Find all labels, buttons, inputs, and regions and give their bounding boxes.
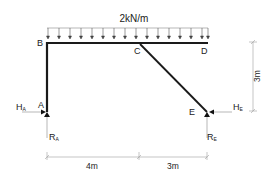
load-arrows xyxy=(47,28,210,39)
dim-label-3m-vertical: 3m xyxy=(252,70,262,82)
node-label-E: E xyxy=(189,107,195,117)
node-label-D: D xyxy=(201,46,208,56)
support-A xyxy=(22,110,50,139)
pin-support-icon xyxy=(204,112,210,117)
reaction-HA-label: HA xyxy=(16,102,27,112)
reaction-HA-arrowhead-icon xyxy=(41,110,46,115)
strut-CE xyxy=(140,44,207,112)
distributed-load: 2kN/m xyxy=(47,13,210,39)
node-label-B: B xyxy=(37,38,43,48)
reaction-HE-label: HE xyxy=(233,102,244,112)
horizontal-dimension xyxy=(45,152,209,160)
frame-diagram: 2kN/m B C D A E HA RA HE RE 4m 3m xyxy=(0,0,274,176)
dim-label-3m-horizontal: 3m xyxy=(167,161,179,171)
node-label-A: A xyxy=(38,100,44,110)
node-label-C: C xyxy=(134,46,141,56)
load-label: 2kN/m xyxy=(120,13,149,24)
reaction-RA-label: RA xyxy=(49,132,60,142)
reaction-HE-arrowhead-icon xyxy=(209,110,214,115)
frame-members xyxy=(47,42,208,112)
pin-support-icon xyxy=(44,112,50,117)
dim-label-4m: 4m xyxy=(86,161,98,171)
reaction-RE-label: RE xyxy=(207,132,218,142)
